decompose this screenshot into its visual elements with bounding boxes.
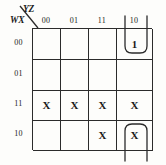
kmap-cell-r1c0[interactable] [33,60,61,91]
kmap-cell-r0c1[interactable] [61,29,89,60]
kmap-cell-r2c1[interactable]: X [61,91,89,121]
kmap-cell-value: X [131,130,139,141]
kmap-cell-r2c3[interactable]: X [117,91,153,121]
kmap-cell-r3c3[interactable]: X [117,121,153,151]
column-axis-label: YZ [23,5,34,15]
kmap-figure: YZ WX 00 01 11 10 00 01 11 10 1 X X X X … [0,0,166,165]
column-header-0: 00 [32,17,60,25]
kmap-cell-value: X [99,130,107,141]
kmap-cell-value: X [131,100,139,111]
kmap-cell-r0c2[interactable] [89,29,117,60]
row-header-2: 11 [8,100,29,108]
kmap-cell-r1c1[interactable] [61,60,89,91]
kmap-cell-r0c3[interactable]: 1 [117,29,153,60]
column-header-1: 01 [60,17,88,25]
kmap-cell-r3c1[interactable] [61,121,89,151]
kmap-cell-r3c0[interactable] [33,121,61,151]
row-header-1: 01 [8,70,29,78]
column-header-3: 10 [120,17,148,25]
kmap-cell-value: X [99,100,107,111]
row-header-3: 10 [8,130,29,138]
kmap-cell-value: 1 [132,39,138,50]
row-axis-label: WX [10,16,24,26]
kmap-grid: 1 X X X X X X [32,28,152,150]
kmap-cell-r2c2[interactable]: X [89,91,117,121]
kmap-cell-r1c2[interactable] [89,60,117,91]
kmap-cell-r3c2[interactable]: X [89,121,117,151]
kmap-cell-value: X [71,100,79,111]
kmap-cell-r0c0[interactable] [33,29,61,60]
column-header-2: 11 [88,17,116,25]
kmap-cell-r2c0[interactable]: X [33,91,61,121]
kmap-cell-r1c3[interactable] [117,60,153,91]
kmap-cell-value: X [43,100,51,111]
row-header-0: 00 [8,39,29,47]
